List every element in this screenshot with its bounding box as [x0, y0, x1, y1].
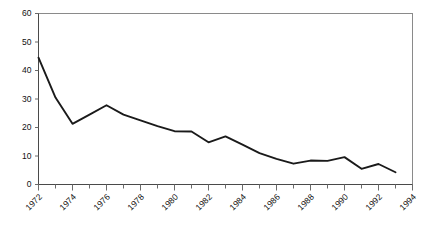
y-tick-label: 10 — [22, 151, 32, 161]
y-tick-label: 0 — [27, 179, 32, 189]
x-tick-group — [39, 185, 413, 191]
x-tick-label: 1984 — [227, 192, 248, 213]
y-tick-label: 40 — [22, 65, 32, 75]
x-tick-label: 1978 — [125, 192, 146, 213]
y-tick-label-group: 0102030405060 — [22, 8, 32, 189]
y-tick-label: 60 — [22, 8, 32, 18]
x-tick-label: 1990 — [329, 192, 350, 213]
y-tick-group — [35, 14, 39, 185]
x-tick-label: 1988 — [295, 192, 316, 213]
x-tick-label: 1982 — [193, 192, 214, 213]
x-tick-label-group: 1972197419761978198019821984198619881990… — [23, 192, 418, 213]
y-axis: 0102030405060 — [22, 8, 38, 189]
chart-canvas: 0102030405060 19721974197619781980198219… — [0, 0, 427, 233]
y-tick-label: 30 — [22, 94, 32, 104]
x-tick-label: 1980 — [159, 192, 180, 213]
y-tick-label: 20 — [22, 122, 32, 132]
x-tick-label: 1994 — [397, 192, 418, 213]
x-tick-label: 1972 — [23, 192, 44, 213]
x-axis: 1972197419761978198019821984198619881990… — [23, 185, 418, 213]
x-tick-label: 1992 — [363, 192, 384, 213]
plot-area-frame — [39, 14, 413, 185]
y-tick-label: 50 — [22, 37, 32, 47]
x-tick-label: 1976 — [91, 192, 112, 213]
x-tick-label: 1986 — [261, 192, 282, 213]
x-tick-label: 1974 — [57, 192, 78, 213]
line-chart: 0102030405060 19721974197619781980198219… — [0, 0, 427, 233]
